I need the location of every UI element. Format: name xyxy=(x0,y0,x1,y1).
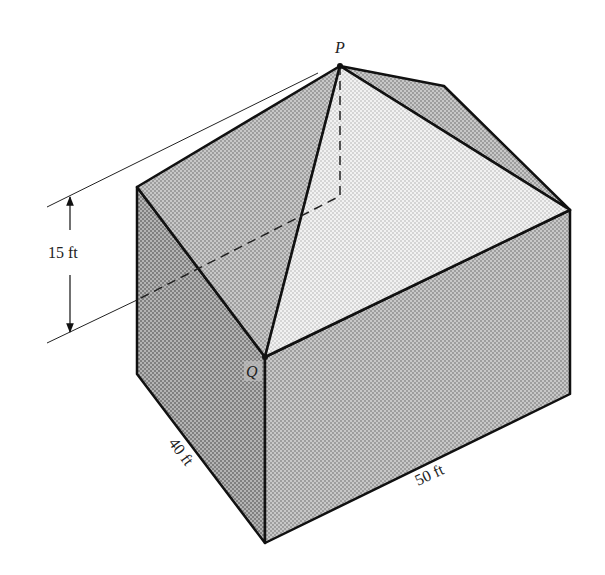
label-p: P xyxy=(334,39,345,56)
label-q: Q xyxy=(246,363,258,380)
corner-point-q xyxy=(262,354,268,360)
apex-point-p xyxy=(337,63,343,69)
extension-line-bottom xyxy=(47,300,137,343)
house-diagram: P Q 15 ft 40 ft 50 ft xyxy=(0,0,605,575)
height-label: 15 ft xyxy=(48,244,78,261)
